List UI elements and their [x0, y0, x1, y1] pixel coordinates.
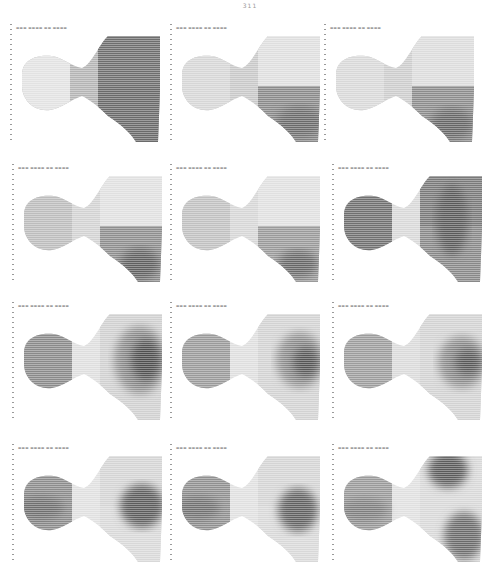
figure-panel: ▬▬▬ ▬▬▬▬ ▬▬ ▬▬▬▬	[330, 440, 490, 570]
field-plot	[330, 440, 490, 570]
figure-panel: ▬▬▬ ▬▬▬▬ ▬▬ ▬▬▬▬	[330, 298, 490, 428]
field-plot	[10, 298, 170, 428]
field-plot	[330, 298, 490, 428]
figure-grid: ▬▬▬ ▬▬▬▬ ▬▬ ▬▬▬▬ ▬▬▬ ▬▬▬▬ ▬▬ ▬▬▬▬ ▬▬▬ ▬▬…	[0, 0, 500, 573]
field-plot	[10, 440, 170, 570]
figure-panel: ▬▬▬ ▬▬▬▬ ▬▬ ▬▬▬▬	[322, 20, 482, 150]
figure-panel: ▬▬▬ ▬▬▬▬ ▬▬ ▬▬▬▬	[168, 160, 328, 290]
field-plot	[168, 298, 328, 428]
field-plot	[168, 440, 328, 570]
figure-panel: ▬▬▬ ▬▬▬▬ ▬▬ ▬▬▬▬	[8, 20, 168, 150]
field-plot	[168, 160, 328, 290]
figure-panel: ▬▬▬ ▬▬▬▬ ▬▬ ▬▬▬▬	[330, 160, 490, 290]
field-plot	[8, 20, 168, 150]
field-plot	[168, 20, 328, 150]
figure-panel: ▬▬▬ ▬▬▬▬ ▬▬ ▬▬▬▬	[168, 298, 328, 428]
field-plot	[10, 160, 170, 290]
figure-panel: ▬▬▬ ▬▬▬▬ ▬▬ ▬▬▬▬	[168, 20, 328, 150]
field-plot	[322, 20, 482, 150]
figure-panel: ▬▬▬ ▬▬▬▬ ▬▬ ▬▬▬▬	[10, 160, 170, 290]
figure-panel: ▬▬▬ ▬▬▬▬ ▬▬ ▬▬▬▬	[10, 440, 170, 570]
field-plot	[330, 160, 490, 290]
figure-panel: ▬▬▬ ▬▬▬▬ ▬▬ ▬▬▬▬	[10, 298, 170, 428]
figure-panel: ▬▬▬ ▬▬▬▬ ▬▬ ▬▬▬▬	[168, 440, 328, 570]
